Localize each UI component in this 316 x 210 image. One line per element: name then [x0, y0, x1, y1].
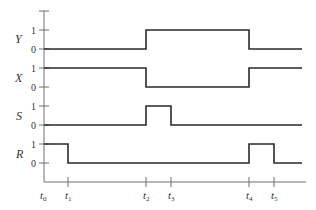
- time-label-t4: t4: [246, 189, 253, 203]
- waveform-r: [44, 144, 302, 163]
- signal-name-s: S: [16, 109, 22, 123]
- level-label-1: 1: [31, 101, 36, 112]
- time-label-t3: t3: [168, 189, 175, 203]
- time-label-t1: t1: [65, 189, 72, 203]
- level-label-0: 0: [31, 82, 36, 93]
- signal-name-y: Y: [15, 32, 23, 46]
- signal-x: X 1 0: [14, 63, 302, 93]
- time-label-t5: t5: [271, 189, 278, 203]
- waveform-s: [44, 106, 302, 125]
- signal-r: R 1 0: [15, 139, 302, 169]
- time-label-t0: t0: [40, 189, 47, 203]
- signal-name-x: X: [14, 71, 23, 85]
- time-axis: [44, 177, 306, 187]
- level-label-1: 1: [31, 139, 36, 150]
- vertical-axis: [39, 11, 49, 182]
- signal-s: S 1 0: [16, 101, 302, 131]
- level-label-0: 0: [31, 120, 36, 131]
- level-label-0: 0: [31, 158, 36, 169]
- timing-diagram: Y 1 0 X 1 0 S 1 0 R 1 0 t0 t1: [0, 0, 316, 210]
- level-label-1: 1: [31, 63, 36, 74]
- time-labels: t0 t1 t2 t3 t4 t5: [40, 189, 278, 203]
- signal-name-r: R: [15, 147, 24, 161]
- time-label-t2: t2: [143, 189, 150, 203]
- level-label-0: 0: [31, 44, 36, 55]
- level-label-1: 1: [31, 25, 36, 36]
- signal-y: Y 1 0: [15, 25, 302, 55]
- waveform-y: [44, 30, 302, 49]
- waveform-x: [44, 68, 302, 87]
